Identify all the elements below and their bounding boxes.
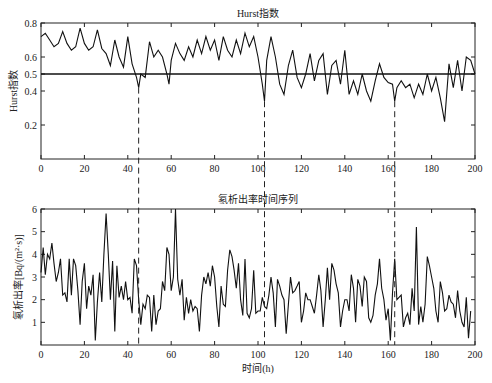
x-tick-label: 180 <box>424 349 439 360</box>
radon-x-label: 时间(h) <box>242 362 274 375</box>
x-tick-label: 160 <box>381 349 396 360</box>
y-tick-label: 2 <box>32 294 37 305</box>
x-tick-label: 20 <box>79 163 89 174</box>
x-tick-label: 140 <box>337 163 352 174</box>
figure: Hurst指数 0.20.40.50.60.8 0204060801001201… <box>0 0 492 383</box>
y-tick-label: 3 <box>32 272 37 283</box>
x-tick-label: 140 <box>337 349 352 360</box>
x-tick-label: 120 <box>294 349 309 360</box>
radon-title: 氡析出率时间序列 <box>218 193 298 205</box>
hurst-title: Hurst指数 <box>237 7 279 19</box>
x-tick-label: 180 <box>424 163 439 174</box>
x-tick-label: 60 <box>166 349 176 360</box>
x-tick-label: 120 <box>294 163 309 174</box>
x-tick-label: 160 <box>381 163 396 174</box>
hurst-x-ticks: 020406080100120140160180200 <box>39 23 483 174</box>
x-tick-label: 80 <box>210 163 220 174</box>
x-tick-label: 100 <box>251 349 266 360</box>
y-tick-label: 4 <box>32 249 37 260</box>
y-tick-label: 1 <box>32 317 37 328</box>
x-tick-label: 60 <box>166 163 176 174</box>
y-tick-label: 0.2 <box>25 120 38 131</box>
x-tick-label: 200 <box>468 349 483 360</box>
x-tick-label: 40 <box>123 349 133 360</box>
radon-series-line <box>41 209 471 341</box>
y-tick-label: 0.4 <box>25 86 38 97</box>
y-tick-label: 0.6 <box>25 52 38 63</box>
y-tick-label: 5 <box>32 226 37 237</box>
y-tick-label: 0.5 <box>25 69 38 80</box>
y-tick-label: 0.8 <box>25 18 38 29</box>
x-tick-label: 200 <box>468 163 483 174</box>
x-tick-label: 20 <box>79 349 89 360</box>
x-tick-label: 40 <box>123 163 133 174</box>
hurst-plot: Hurst指数 0.20.40.50.60.8 0204060801001201… <box>7 7 483 174</box>
hurst-axes-frame <box>41 23 475 159</box>
hurst-series-line <box>41 28 475 122</box>
radon-y-ticks: 123456 <box>32 204 475 328</box>
radon-plot: 氡析出率时间序列 123456 020406080100120140160180… <box>12 193 483 375</box>
hurst-y-label: Hurst指数 <box>7 70 19 112</box>
y-tick-label: 6 <box>32 204 37 215</box>
x-tick-label: 0 <box>39 349 44 360</box>
radon-y-label: 氡析出率[Bq/(m²·s)] <box>12 234 25 320</box>
x-tick-label: 0 <box>39 163 44 174</box>
x-tick-label: 80 <box>210 349 220 360</box>
x-tick-label: 100 <box>251 163 266 174</box>
